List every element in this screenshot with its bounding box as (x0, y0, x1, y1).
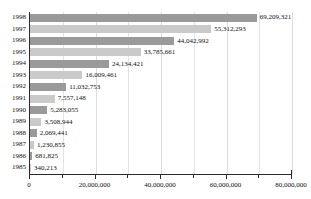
bar-row: 3,508,944 (30, 116, 292, 128)
bar-value-label: 2,069,441 (40, 128, 68, 138)
bar[interactable] (30, 129, 37, 137)
y-axis-tick-label: 1991 (0, 93, 26, 105)
y-axis-tick-label: 1997 (0, 24, 26, 36)
bar-row: 5,283,055 (30, 105, 292, 117)
y-axis-tick-label: 1985 (0, 162, 26, 174)
y-axis-tick-label: 1989 (0, 116, 26, 128)
y-axis-tick-label: 1986 (0, 151, 26, 163)
bar-row: 1,230,855 (30, 139, 292, 151)
x-axis-tick-mark (226, 175, 227, 179)
bar-value-label: 33,785,661 (144, 47, 176, 57)
y-axis-tick-label: 1998 (0, 12, 26, 24)
bar-row: 2,069,441 (30, 128, 292, 140)
bar-row: 55,312,293 (30, 24, 292, 36)
bar-row: 44,042,992 (30, 35, 292, 47)
x-axis-tick-mark (291, 175, 292, 179)
bar-value-label: 16,009,461 (85, 70, 117, 80)
bar-value-label: 340,213 (34, 163, 57, 173)
y-axis-tick-label: 1992 (0, 81, 26, 93)
bar-row: 340,213 (30, 162, 292, 174)
y-axis-tick-label: 1987 (0, 139, 26, 151)
y-axis-tick-label: 1990 (0, 105, 26, 117)
x-axis-tick-label: 0 (27, 181, 31, 190)
bar-value-label: 69,209,321 (260, 12, 292, 22)
bar[interactable] (30, 14, 257, 22)
bar[interactable] (30, 25, 211, 33)
bar-value-label: 11,032,753 (69, 82, 100, 92)
y-axis-tick-label: 1995 (0, 47, 26, 59)
bar[interactable] (30, 152, 32, 160)
bar[interactable] (30, 83, 66, 91)
bar-row: 11,032,753 (30, 81, 292, 93)
bar-row: 7,557,148 (30, 93, 292, 105)
x-axis-tick-mark (29, 175, 30, 179)
y-axis-tick-label: 1994 (0, 58, 26, 70)
bar[interactable] (30, 106, 47, 114)
bar[interactable] (30, 95, 55, 103)
x-axis-tick-label: 80,000,000 (275, 181, 307, 190)
x-axis-tick-label: 40,000,000 (144, 181, 176, 190)
bar-row: 681,825 (30, 151, 292, 163)
bar[interactable] (30, 71, 82, 79)
y-axis-tick-label: 1996 (0, 35, 26, 47)
bar-value-label: 5,283,055 (50, 105, 78, 115)
x-axis-tick-mark (95, 175, 96, 179)
bar-value-label: 7,557,148 (58, 93, 86, 103)
plot-area: 69,209,32155,312,29344,042,99233,785,661… (29, 12, 291, 174)
bar-row: 69,209,321 (30, 12, 292, 24)
chart-title (0, 0, 311, 2)
bar-row: 16,009,461 (30, 70, 292, 82)
x-axis-tick-mark (160, 175, 161, 179)
bar-value-label: 1,230,855 (37, 140, 65, 150)
bar-value-label: 44,042,992 (177, 36, 209, 46)
bar-row: 24,134,421 (30, 58, 292, 70)
x-axis-minor-tick-mark (258, 175, 259, 178)
x-axis-tick-label: 60,000,000 (210, 181, 242, 190)
bar[interactable] (30, 118, 41, 126)
bar[interactable] (30, 141, 34, 149)
bar-value-label: 24,134,421 (112, 59, 144, 69)
bar[interactable] (30, 164, 31, 172)
bar-row: 33,785,661 (30, 47, 292, 59)
bar[interactable] (30, 48, 141, 56)
bar-value-label: 3,508,944 (44, 117, 72, 127)
bar-value-label: 55,312,293 (214, 24, 246, 34)
bar-chart: 69,209,32155,312,29344,042,99233,785,661… (0, 0, 311, 199)
y-axis-tick-label: 1993 (0, 70, 26, 82)
gridline (292, 12, 293, 174)
bar[interactable] (30, 60, 109, 68)
x-axis-minor-tick-mark (62, 175, 63, 178)
y-axis-tick-label: 1988 (0, 128, 26, 140)
x-axis-minor-tick-mark (193, 175, 194, 178)
x-axis-minor-tick-mark (127, 175, 128, 178)
bar-value-label: 681,825 (35, 151, 58, 161)
bar[interactable] (30, 37, 174, 45)
x-axis-tick-label: 20,000,000 (79, 181, 111, 190)
